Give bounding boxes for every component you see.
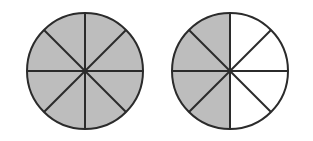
circle-left bbox=[27, 13, 143, 129]
fraction-circles-canvas bbox=[0, 0, 313, 141]
circle-right bbox=[172, 13, 288, 129]
fraction-circles-figure bbox=[0, 0, 313, 141]
